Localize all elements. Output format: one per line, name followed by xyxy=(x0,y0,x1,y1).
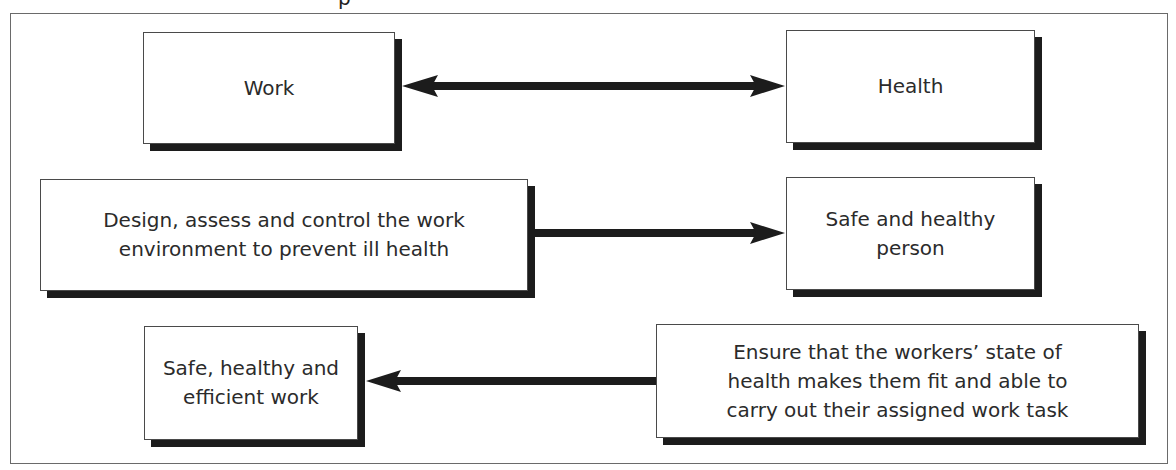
connector-arrows xyxy=(0,0,1176,470)
double-arrow-icon xyxy=(402,75,785,97)
right-arrow-icon xyxy=(535,222,785,244)
left-arrow-icon xyxy=(366,370,656,392)
